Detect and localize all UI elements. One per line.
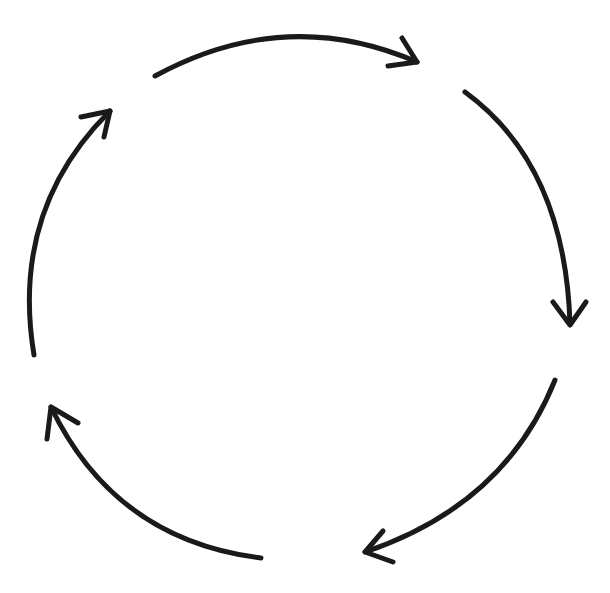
arrow-left-icon [29,111,110,355]
arrow-top-icon [155,37,417,76]
arrow-right-icon [465,92,586,325]
arrow-bottom-left-icon [47,407,261,558]
arrow-bottom-right-icon [365,380,555,562]
cycle-diagram [0,0,610,593]
